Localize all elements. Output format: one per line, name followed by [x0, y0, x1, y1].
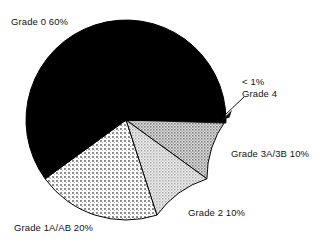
pie-chart-figure: Grade 0 60% Grade 1A/AB 20% Grade 2 10% …: [0, 0, 323, 244]
pie-chart-graphic: [0, 0, 323, 244]
slice-label-grade-3a3b: Grade 3A/3B 10%: [231, 148, 309, 160]
slice-label-grade-0: Grade 0 60%: [11, 16, 68, 28]
slice-label-grade-4-name: Grade 4: [242, 88, 277, 100]
slice-label-grade-4-percent: < 1%: [242, 76, 264, 87]
slice-label-grade-4: < 1% Grade 4: [242, 76, 277, 100]
slice-label-grade-2: Grade 2 10%: [188, 207, 245, 219]
slice-label-grade-1a-ab: Grade 1A/AB 20%: [14, 222, 93, 234]
